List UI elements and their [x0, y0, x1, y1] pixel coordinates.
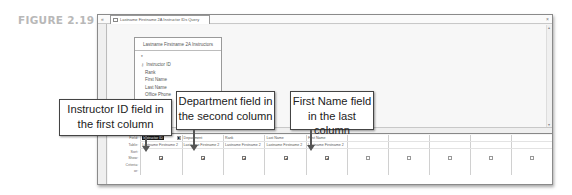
scroll-up-icon[interactable]: ▴ [548, 25, 550, 30]
grid-row-or: or: [108, 168, 552, 175]
callout-text: Instructor ID field in [60, 102, 171, 117]
field-list-item[interactable]: Rank [141, 69, 221, 76]
or-cell[interactable] [348, 168, 389, 175]
callout-text: First Name field [291, 94, 373, 109]
callout-text: the first column [60, 117, 171, 132]
callout-text: in the last column [291, 109, 373, 138]
or-cell[interactable] [306, 168, 347, 175]
table-cell[interactable]: Lastname Firstname 2 [182, 142, 223, 149]
show-checkbox[interactable]: ✔ [242, 156, 246, 160]
or-cell[interactable] [511, 168, 552, 175]
field-list-item[interactable]: First Name [141, 76, 221, 83]
table-cell[interactable] [470, 142, 511, 149]
field-list-item[interactable]: Last Name [141, 84, 221, 91]
show-checkbox[interactable]: ✔ [159, 156, 163, 160]
field-list-item[interactable]: ⚷ Instructor ID [141, 61, 221, 68]
row-header: Table: [108, 142, 141, 149]
callout-pointer [145, 136, 147, 147]
or-cell[interactable] [429, 168, 470, 175]
callout-instructor-id: Instructor ID field in the first column [59, 99, 172, 136]
callout-first-name: First Name field in the last column [290, 91, 374, 130]
show-checkbox[interactable] [489, 156, 493, 160]
or-cell[interactable] [224, 168, 265, 175]
callout-text: Department field in [177, 94, 274, 109]
show-checkbox[interactable] [366, 156, 370, 160]
or-cell[interactable] [141, 168, 182, 175]
table-cell[interactable] [429, 142, 470, 149]
tab-title: Lastname Firstname 2A Instructor IDs Que… [120, 17, 199, 22]
row-header: or: [108, 168, 141, 175]
callout-department: Department field in the second column [176, 91, 275, 130]
or-cell[interactable] [470, 168, 511, 175]
show-checkbox[interactable] [530, 156, 534, 160]
query-icon [113, 18, 118, 22]
or-cell[interactable] [389, 168, 430, 175]
grid-row-table: Table: Lastname Firstname 2 Lastname Fir… [108, 142, 552, 149]
show-checkbox[interactable]: ✔ [284, 156, 288, 160]
callout-text: the second column [177, 109, 274, 124]
tab-query[interactable]: Lastname Firstname 2A Instructor IDs Que… [110, 15, 210, 24]
primary-key-icon: ⚷ [141, 61, 145, 68]
dropdown-icon[interactable]: ▾ [177, 136, 181, 140]
show-checkbox[interactable] [448, 156, 452, 160]
vertical-scrollbar[interactable]: ▴ ▾ [546, 25, 552, 127]
callout-pointer [193, 130, 195, 146]
or-cell[interactable] [265, 168, 306, 175]
close-icon[interactable]: × [546, 16, 549, 22]
table-cell[interactable]: Lastname Firstname 2 [224, 142, 265, 149]
table-cell[interactable] [389, 142, 430, 149]
table-cell[interactable] [348, 142, 389, 149]
table-cell[interactable]: Lastname Firstname 2 [265, 142, 306, 149]
field-list-title: Lastname Firstname 2A Instructors [135, 38, 221, 51]
show-checkbox[interactable] [407, 156, 411, 160]
or-cell[interactable] [182, 168, 223, 175]
callout-pointer [310, 130, 312, 146]
show-checkbox[interactable]: ✔ [325, 156, 329, 160]
table-cell[interactable] [511, 142, 552, 149]
figure-label: FIGURE 2.19 [18, 14, 94, 26]
field-list-item[interactable]: * [141, 54, 221, 61]
document-tab-bar: « Lastname Firstname 2A Instructor IDs Q… [98, 15, 552, 24]
show-checkbox[interactable]: ✔ [201, 156, 205, 160]
nav-pane-toggle-icon[interactable]: « [101, 16, 104, 22]
design-grid[interactable]: Field: Instructor ID▾ Department Rank La… [108, 135, 552, 184]
